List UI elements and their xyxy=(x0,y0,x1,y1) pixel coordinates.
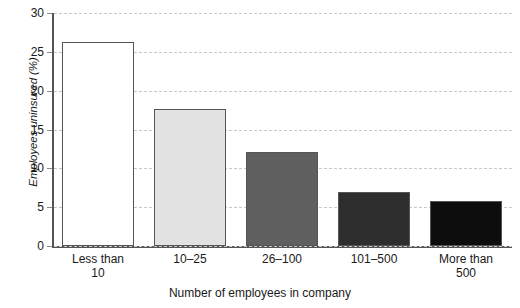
y-tick-label: 30 xyxy=(0,7,44,19)
x-tick-label: 101–500 xyxy=(328,252,420,266)
gridline xyxy=(54,13,512,14)
plot-area: 051015202530 xyxy=(52,13,512,246)
x-tick-label-line1: More than xyxy=(439,252,493,266)
y-tick-mark xyxy=(47,13,52,14)
x-axis-title: Number of employees in company xyxy=(0,286,520,300)
y-tick-label: 20 xyxy=(0,85,44,97)
y-tick-mark xyxy=(47,91,52,92)
y-tick-mark xyxy=(47,246,52,247)
bar-chart-figure: Employees uninsured (%) 051015202530 Les… xyxy=(0,0,520,308)
y-tick-label: 5 xyxy=(0,201,44,213)
x-tick-label: Less than10 xyxy=(52,252,144,280)
y-tick-label: 25 xyxy=(0,46,44,58)
bar xyxy=(246,152,318,246)
y-tick-mark xyxy=(47,52,52,53)
x-tick-label: More than500 xyxy=(420,252,512,280)
bar xyxy=(338,192,410,246)
x-tick-label-line1: 26–100 xyxy=(262,252,302,266)
y-tick-label: 15 xyxy=(0,124,44,136)
x-tick-label-line1: 101–500 xyxy=(351,252,398,266)
x-tick-label-line1: Less than xyxy=(72,252,124,266)
x-tick-label-line2: 10 xyxy=(52,266,144,280)
y-tick-mark xyxy=(47,168,52,169)
x-tick-label-line1: 10–25 xyxy=(173,252,206,266)
gridline xyxy=(54,246,512,247)
bar xyxy=(154,109,226,246)
y-tick-label: 0 xyxy=(0,240,44,252)
bar xyxy=(430,201,502,246)
y-tick-mark xyxy=(47,207,52,208)
y-tick-label: 10 xyxy=(0,162,44,174)
x-tick-label: 26–100 xyxy=(236,252,328,266)
y-tick-mark xyxy=(47,130,52,131)
bar xyxy=(62,42,134,246)
x-tick-label-line2: 500 xyxy=(420,266,512,280)
x-tick-label: 10–25 xyxy=(144,252,236,266)
